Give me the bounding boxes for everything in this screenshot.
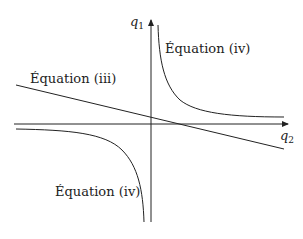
equation-iii-line [16, 85, 284, 149]
equation-iii-label: Équation (iii) [30, 71, 116, 86]
q2-label: q2 [280, 128, 294, 145]
equation-iv-lower-label: Équation (iv) [55, 184, 140, 199]
equation-iv-upper-label: Équation (iv) [165, 41, 250, 56]
equation-iv-upper-curve [158, 25, 284, 117]
diagram-canvas: q1 q2 Équation (iv) Équation (iii) Équat… [0, 0, 303, 239]
equation-iv-lower-curve [16, 129, 144, 222]
q1-label: q1 [130, 14, 144, 31]
